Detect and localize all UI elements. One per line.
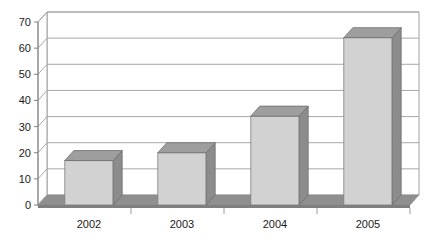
y-axis-tick-label: 70 — [19, 16, 31, 28]
y-axis-tick-label: 40 — [19, 94, 31, 106]
bar-top-face — [344, 28, 401, 38]
x-axis-category-label: 2002 — [77, 218, 101, 230]
bar-chart-figure: 706050403020100 2002200320042005 — [0, 0, 428, 241]
y-axis-tick-label: 10 — [19, 173, 31, 185]
y-axis-tick-label: 0 — [25, 199, 31, 211]
y-axis-tick-label: 50 — [19, 68, 31, 80]
bar-side-face — [299, 106, 308, 205]
y-axis-tick-label: 30 — [19, 121, 31, 133]
bar-column — [251, 106, 308, 205]
bar-side-face — [392, 28, 401, 205]
bar-top-face — [65, 151, 122, 161]
x-axis-tick-marks — [131, 208, 410, 214]
y-axis-tick-label: 20 — [19, 147, 31, 159]
bar-top-face — [158, 143, 215, 153]
x-axis-category-labels: 2002200320042005 — [77, 218, 380, 230]
x-axis-category-label: 2004 — [263, 218, 287, 230]
bar-side-face — [206, 143, 215, 205]
chart-canvas: 706050403020100 2002200320042005 — [0, 0, 428, 241]
y-axis-tick-label: 60 — [19, 42, 31, 54]
bar-front-face — [251, 116, 299, 205]
bar-column — [65, 151, 122, 205]
x-axis-category-label: 2005 — [356, 218, 380, 230]
y-axis-tick-labels: 706050403020100 — [19, 16, 31, 211]
bar-front-face — [158, 153, 206, 205]
bar-column — [344, 28, 401, 205]
bar-front-face — [65, 161, 113, 205]
x-axis-category-label: 2003 — [170, 218, 194, 230]
bar-column — [158, 143, 215, 205]
bar-top-face — [251, 106, 308, 116]
bar-front-face — [344, 38, 392, 205]
